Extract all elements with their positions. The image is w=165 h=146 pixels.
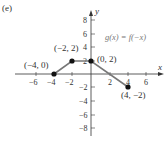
x-axis-label: x <box>157 62 162 72</box>
function-label: g(x) = f(−x) <box>105 32 146 42</box>
y-tick-label: 8 <box>83 16 87 25</box>
x-tick-label: 6 <box>144 78 148 87</box>
y-tick-label: 6 <box>83 30 87 39</box>
panel-label: (e) <box>2 3 12 13</box>
y-axis-label: y <box>94 6 99 16</box>
point-label: (4, −2) <box>121 90 146 100</box>
data-point <box>51 71 56 76</box>
y-tick-label: −6 <box>79 111 88 120</box>
data-point <box>125 84 130 89</box>
x-tick-label: 2 <box>108 78 112 87</box>
point-label: (−2, 2) <box>54 43 79 53</box>
graph: (e) x y −6 −4 −2 2 4 6 8 6 4 2 −2 −4 <box>0 0 165 146</box>
y-tick-label: −2 <box>79 83 88 92</box>
data-point <box>88 58 93 63</box>
x-tick-label: −6 <box>29 78 38 87</box>
y-ticks: 8 6 4 2 −2 −4 −6 −8 <box>79 16 95 133</box>
x-axis-arrow-icon <box>158 72 164 76</box>
x-tick-label: −2 <box>65 78 74 87</box>
y-tick-label: −8 <box>79 124 88 133</box>
data-point <box>69 58 74 63</box>
y-tick-label: 4 <box>83 43 87 52</box>
y-axis-arrow-icon <box>89 10 93 16</box>
y-tick-label: −4 <box>79 97 88 106</box>
point-label: (0, 2) <box>97 54 117 64</box>
x-tick-label: −4 <box>47 78 56 87</box>
point-label: (−4, 0) <box>24 60 49 70</box>
